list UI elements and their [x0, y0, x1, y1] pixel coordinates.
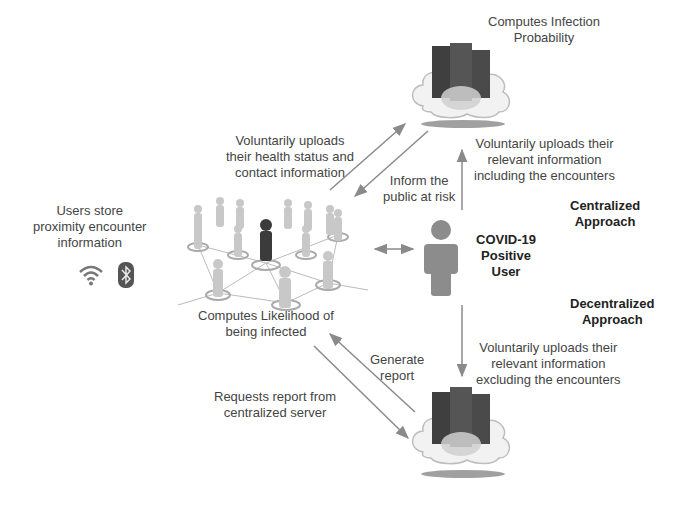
upload-including-label: Voluntarily uploads their relevant infor… — [474, 136, 615, 184]
users-store-label: Users store proximity encounter informat… — [33, 203, 146, 251]
covid-user-label: COVID-19 Positive User — [476, 232, 536, 280]
top-server-label: Computes Infection Probability — [488, 14, 600, 46]
users-network-label: Computes Likelihood of being infected — [198, 308, 334, 340]
wifi-icon — [78, 264, 104, 286]
inform-public-label: Inform the public at risk — [383, 173, 455, 205]
bluetooth-icon — [118, 262, 134, 288]
upload-excluding-label: Voluntarily uploads their relevant infor… — [476, 340, 621, 388]
person-icon — [420, 220, 462, 300]
generate-report-label: Generate report — [370, 352, 424, 384]
top-cloud-server-icon — [405, 38, 515, 133]
request-report-label: Requests report from centralized server — [214, 389, 336, 421]
decentralized-approach-label: Decentralized Approach — [570, 296, 655, 328]
centralized-approach-label: Centralized Approach — [570, 198, 640, 230]
upload-health-label: Voluntarily uploads their health status … — [226, 133, 354, 181]
infected-user-icon — [260, 219, 272, 261]
people-network-icon — [178, 195, 368, 325]
bottom-cloud-server-icon — [405, 384, 515, 484]
